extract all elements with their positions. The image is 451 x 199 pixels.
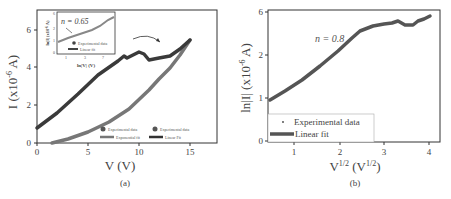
chart-b-legend-item: Experimental data	[294, 117, 360, 127]
chart-b-xlabel: V1/2 (V1/2)	[329, 159, 380, 174]
chart-a-xtick: 15	[186, 147, 196, 157]
chart-a-legend-item: Experimental data	[108, 127, 137, 132]
inset-ytick: 1	[53, 38, 55, 43]
inset-ylabel: ln|I| (x10-6 A)	[45, 20, 51, 46]
chart-b-x-ticks: 1 2 3 4	[292, 142, 432, 157]
chart-b: 0 1 2 6 1 2 3 4 n = 0.8 Experimental dat…	[238, 7, 440, 188]
chart-b-caption: (b)	[350, 178, 361, 188]
inset-ytick: 0	[53, 50, 55, 55]
chart-b-ytick: 2	[259, 50, 264, 60]
chart-a-legend-item: Experimental data	[160, 127, 189, 132]
chart-b-legend-item: Linear fit	[295, 129, 329, 139]
chart-a-ytick: 0	[27, 138, 32, 148]
chart-b-ytick: 6	[259, 7, 264, 17]
inset-ytick: 6	[53, 11, 55, 16]
chart-a-ytick: 2	[27, 100, 32, 110]
chart-a-xtick: 0	[35, 147, 40, 157]
chart-b-ytick: 1	[259, 93, 264, 103]
chart-a-legend-item: Linear Fit	[165, 135, 182, 140]
chart-b-annotation: n = 0.8	[315, 33, 344, 44]
chart-a-y-ticks: 0 2 4 6	[27, 25, 38, 148]
chart-b-legend: Experimental data Linear fit	[268, 114, 374, 142]
inset-legend-item: Linear fit	[80, 47, 96, 52]
inset-annotation: n = 0.65	[61, 17, 88, 26]
chart-a-ytick: 4	[27, 62, 32, 72]
figure: 0 2 4 6 0 5 10 15 Experimental data Exp	[0, 0, 451, 199]
chart-b-xtick: 2	[338, 147, 343, 157]
chart-b-xtick: 4	[427, 147, 432, 157]
chart-b-xtick: 1	[292, 147, 297, 157]
inset-xtick: 1	[65, 55, 67, 60]
chart-a-legend-item: Exponential fit	[116, 135, 141, 140]
chart-b-xtick: 3	[382, 147, 387, 157]
chart-a: 0 2 4 6 0 5 10 15 Experimental data Exp	[5, 10, 217, 188]
chart-a-xtick: 5	[86, 147, 91, 157]
chart-a-ylabel: I (x10-6 A)	[5, 55, 20, 109]
chart-b-ytick: 0	[259, 136, 264, 146]
inset-legend-item: Experimental data	[78, 41, 107, 46]
chart-a-ytick: 6	[27, 25, 32, 35]
chart-a-x-ticks: 0 5 10 15	[35, 143, 195, 157]
chart-a-caption: (a)	[120, 178, 130, 188]
inset-xtick: 3	[84, 55, 86, 60]
chart-a-xlabel: V (V)	[105, 158, 135, 173]
inset-ytick: 2	[53, 26, 55, 31]
chart-a-xtick: 10	[135, 147, 145, 157]
chart-b-ylabel: ln|I| (x10-6 A)	[238, 43, 253, 113]
inset-xtick: 7	[102, 55, 104, 60]
inset-xlabel: ln|V| (V)	[77, 63, 96, 68]
chart-b-y-ticks: 0 1 2 6	[259, 7, 269, 146]
